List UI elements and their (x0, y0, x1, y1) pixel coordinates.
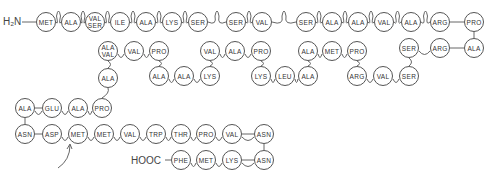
residue-ala: ALA (61, 12, 81, 32)
residue-label: SER (402, 73, 416, 80)
residue-met: MET (36, 12, 56, 32)
residue-label-alt: SER (88, 22, 102, 29)
residue-label: ALA (18, 105, 31, 112)
residue-ala: ALA (298, 66, 318, 86)
peptide-sequence-diagram: H₂N HOOC METALAVALSERILEALALYSSERSERVALS… (0, 0, 487, 177)
residue-leu: LEU (275, 66, 295, 86)
residue-ala: ALA (298, 41, 318, 61)
residue-label: THR (174, 131, 188, 138)
residue-label: ALA (301, 73, 314, 80)
residue-met: MET (196, 150, 216, 170)
residue-label: PRO (152, 48, 167, 55)
residue-pro: PRO (149, 41, 169, 61)
residue-lys: LYS (251, 66, 271, 86)
residue-label: ASN (257, 157, 271, 164)
residue-thr: THR (171, 124, 191, 144)
residue-label: LYS (255, 73, 268, 80)
residue-label: ALA (404, 19, 417, 26)
residue-label: ALA (101, 44, 114, 51)
residue-val: VAL (373, 66, 393, 86)
residue-label: VAL (378, 19, 391, 26)
residue-trp: TRP (146, 124, 166, 144)
residue-ala: ALA (98, 68, 118, 88)
residue-label: PHE (174, 157, 188, 164)
residue-label: ALA (101, 75, 114, 82)
residue-met: MET (94, 124, 114, 144)
residue-lys: LYS (200, 66, 220, 86)
residue-arg: ARG (347, 66, 367, 86)
residue-label: ALA (64, 19, 77, 26)
residue-label: VAL (377, 73, 390, 80)
residue-arg: ARG (430, 12, 450, 32)
residue-val: VAL (120, 124, 140, 144)
residue-val: VAL (124, 41, 144, 61)
residue-ala: ALA (68, 98, 88, 118)
residue-label: VAL (128, 48, 141, 55)
residue-ala: ALA (136, 12, 156, 32)
residue-ser: SER (188, 12, 208, 32)
residue-pro: PRO (464, 12, 484, 32)
residue-pro: PRO (92, 98, 112, 118)
residue-pro: PRO (196, 124, 216, 144)
residue-glu: GLU (42, 98, 62, 118)
residue-val: VAL (374, 12, 394, 32)
residue-label: VAL (89, 15, 102, 22)
residue-label: ALA (325, 19, 338, 26)
residue-label: MET (199, 157, 214, 164)
n-terminus-label: H₂N (3, 16, 21, 27)
residue-label: ARG (433, 19, 448, 26)
residue-val: VAL (222, 124, 242, 144)
residue-ala: ALA (149, 66, 169, 86)
residue-lys: LYS (222, 150, 242, 170)
residue-label: PRO (254, 48, 269, 55)
residue-asn: ASN (254, 150, 274, 170)
residue-ala: ALA (174, 66, 194, 86)
residue-arg: ARG (430, 38, 450, 58)
residue-label: TRP (149, 131, 163, 138)
residue-ala: ALA (401, 12, 421, 32)
residue-label: LYS (226, 157, 239, 164)
residue-label: VAL (226, 131, 239, 138)
residue-ala: ALA (464, 38, 484, 58)
residue-label: ARG (350, 73, 365, 80)
residue-label: ASN (257, 131, 271, 138)
residue-ser: SER (226, 12, 246, 32)
residue-label: LYS (204, 73, 217, 80)
residue-label: VAL (124, 131, 137, 138)
residue-label: ILE (115, 19, 126, 26)
residue-label: ALA (351, 19, 364, 26)
residue-ala: ALA (15, 98, 35, 118)
residue-label-alt: VAL (102, 51, 115, 58)
residue-label: ALA (228, 48, 241, 55)
residue-label: PRO (467, 19, 482, 26)
residue-label: ALA (139, 19, 152, 26)
residue-lys: LYS (162, 12, 182, 32)
residue-label: MET (39, 19, 54, 26)
residue-label: ASP (45, 131, 59, 138)
residue-met: MET (322, 41, 342, 61)
residue-label: SER (402, 45, 416, 52)
residue-label: SER (299, 19, 313, 26)
residue-ile: ILE (110, 12, 130, 32)
residue-ala: ALA (225, 41, 245, 61)
residue-ser: SER (399, 38, 419, 58)
residue-asp: ASP (42, 124, 62, 144)
residue-label: ARG (433, 45, 448, 52)
residue-ala: ALAVAL (98, 41, 118, 61)
residue-pro: PRO (251, 41, 271, 61)
residue-label: MET (71, 131, 86, 138)
residue-label: ALA (467, 45, 480, 52)
residue-phe: PHE (171, 150, 191, 170)
residue-label: ASN (18, 131, 32, 138)
residue-label: PRO (199, 131, 214, 138)
residue-label: SER (229, 19, 243, 26)
residue-pro: PRO (347, 41, 367, 61)
residue-label: PRO (95, 105, 110, 112)
residue-label: PRO (350, 48, 365, 55)
residue-ala: ALA (322, 12, 342, 32)
residue-label: ALA (71, 105, 84, 112)
residue-label: ALA (152, 73, 165, 80)
residue-label: VAL (204, 48, 217, 55)
residue-asn: ASN (254, 124, 274, 144)
residue-label: VAL (256, 19, 269, 26)
